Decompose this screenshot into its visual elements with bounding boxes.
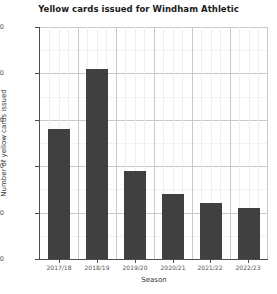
plot-area xyxy=(40,27,268,259)
bar-0[interactable] xyxy=(48,129,70,259)
gridline-vertical xyxy=(116,27,117,259)
y-tick-mark xyxy=(35,27,39,28)
gridline-vertical xyxy=(154,27,155,259)
gridline-vertical xyxy=(230,27,231,259)
x-tick-label: 2020/21 xyxy=(161,264,186,271)
bar-3[interactable] xyxy=(162,194,184,259)
x-tick-mark xyxy=(135,259,136,263)
x-tick-label: 2017/18 xyxy=(47,264,72,271)
x-tick-label: 2019/20 xyxy=(123,264,148,271)
gridline-vertical xyxy=(267,27,268,259)
y-axis-title: Number of yellow cards issued xyxy=(0,27,12,259)
chart-title: Yellow cards issued for Windham Athletic xyxy=(0,4,277,14)
x-axis-title: Season xyxy=(40,276,268,284)
x-tick-mark xyxy=(248,259,249,263)
gridline-vertical xyxy=(78,27,79,259)
y-tick-mark xyxy=(35,166,39,167)
gridline-vertical xyxy=(192,27,193,259)
x-tick-label: 2018/19 xyxy=(85,264,110,271)
y-tick-mark xyxy=(35,213,39,214)
y-tick-mark xyxy=(35,73,39,74)
x-tick-label: 2022/23 xyxy=(236,264,261,271)
x-axis-line xyxy=(39,259,268,260)
x-tick-mark xyxy=(59,259,60,263)
y-tick-mark xyxy=(35,259,39,260)
x-tick-mark xyxy=(97,259,98,263)
x-tick-label: 2021/22 xyxy=(198,264,223,271)
bar-1[interactable] xyxy=(86,69,108,259)
bar-4[interactable] xyxy=(200,203,222,259)
bar-2[interactable] xyxy=(124,171,146,259)
bar-chart: Yellow cards issued for Windham Athletic xyxy=(0,0,277,294)
bar-5[interactable] xyxy=(238,208,260,259)
x-tick-mark xyxy=(210,259,211,263)
y-tick-mark xyxy=(35,120,39,121)
y-axis-line xyxy=(39,27,40,260)
x-tick-mark xyxy=(173,259,174,263)
